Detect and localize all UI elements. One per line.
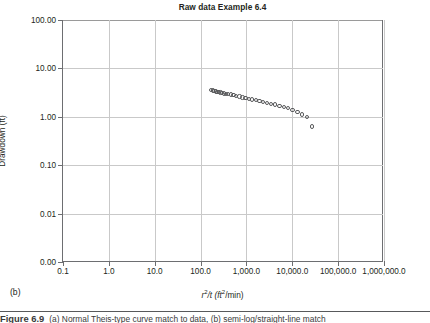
data-point <box>295 110 299 114</box>
x-tick-label: 0.1 <box>57 267 68 276</box>
y-axis-title: Drawdown (ft) <box>0 115 7 167</box>
y-tick-label: 100.00 <box>31 16 56 25</box>
panel-label: (b) <box>10 287 21 297</box>
x-tick-mark <box>109 261 110 266</box>
y-tick-mark <box>58 20 63 21</box>
plot-frame-top-border <box>63 20 383 21</box>
plot-frame-right-border <box>382 20 383 261</box>
x-tick-mark <box>201 261 202 266</box>
x-tick-label: 10,000.0 <box>276 267 308 276</box>
x-tick-mark <box>384 261 385 266</box>
y-tick-mark <box>58 68 63 69</box>
chart-title: Raw data Example 6.4 <box>62 2 383 12</box>
x-tick-label: 1.0 <box>103 267 114 276</box>
data-point <box>305 115 309 119</box>
caption-body: (a) Normal Theis-type curve match to dat… <box>49 314 325 323</box>
gridline-vertical <box>201 20 202 261</box>
gridline-horizontal <box>63 214 383 215</box>
x-tick-mark <box>155 261 156 266</box>
y-tick-label: 0.10 <box>40 161 56 170</box>
y-tick-label: 1.00 <box>40 112 56 121</box>
x-axis-title-suffix: /min) <box>225 290 243 300</box>
gridline-horizontal <box>63 165 383 166</box>
data-point <box>310 124 314 128</box>
y-tick-mark <box>58 214 63 215</box>
data-point <box>277 104 281 108</box>
x-tick-label: 1,000.0 <box>233 267 260 276</box>
y-tick-mark <box>58 165 63 166</box>
x-tick-label: 100,000.0 <box>320 267 356 276</box>
gridline-vertical <box>109 20 110 261</box>
x-tick-label: 1,000,000.0 <box>362 267 405 276</box>
caption-divider <box>0 311 430 312</box>
data-point <box>300 112 304 116</box>
gridline-horizontal <box>63 117 383 118</box>
caption-number: Figure 6.9 <box>0 313 44 323</box>
y-tick-mark <box>58 117 63 118</box>
gridline-vertical <box>384 20 385 261</box>
x-axis-title: r2/t (ft2/min) <box>62 289 383 300</box>
gridline-vertical <box>246 20 247 261</box>
x-tick-label: 10.0 <box>147 267 163 276</box>
gridline-vertical <box>338 20 339 261</box>
y-tick-label: 10.00 <box>36 64 57 73</box>
y-tick-label: 0.00 <box>40 258 56 267</box>
x-tick-label: 100.0 <box>190 267 211 276</box>
x-axis-title-mid: /t (ft <box>208 290 222 300</box>
gridline-vertical <box>155 20 156 261</box>
y-axis-title-text: Drawdown (ft) <box>0 115 7 167</box>
gridline-vertical <box>292 20 293 261</box>
figure-panel-b: Raw data Example 6.4 100.0010.001.000.10… <box>0 0 430 323</box>
plot-area: 100.0010.001.000.100.010.00 0.11.010.010… <box>62 20 383 262</box>
x-tick-mark <box>338 261 339 266</box>
x-tick-mark <box>63 261 64 266</box>
x-tick-mark <box>292 261 293 266</box>
gridline-horizontal <box>63 68 383 69</box>
y-tick-label: 0.01 <box>40 209 56 218</box>
figure-caption: Figure 6.9(a) Normal Theis-type curve ma… <box>0 313 430 323</box>
x-tick-mark <box>246 261 247 266</box>
